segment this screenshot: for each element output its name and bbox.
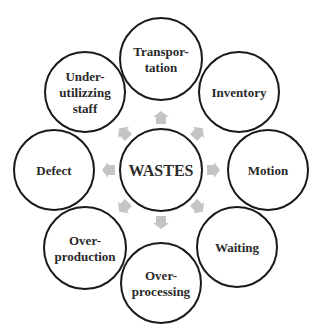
arrow-icon-motion bbox=[207, 162, 220, 178]
arrow-icon-transportation bbox=[153, 111, 169, 124]
node-label: Defect bbox=[36, 163, 72, 178]
node-label: production bbox=[54, 249, 116, 264]
wastes-diagram: Transpor-tationInventoryMotionWaitingOve… bbox=[0, 0, 322, 335]
node-over-production: Over-production bbox=[44, 207, 126, 289]
node-label: Over- bbox=[69, 233, 101, 248]
node-inventory: Inventory bbox=[199, 52, 279, 132]
node-transportation: Transpor-tation bbox=[120, 18, 202, 100]
arrow-icon-over-production bbox=[114, 197, 135, 218]
center-label: WASTES bbox=[129, 162, 194, 179]
node-label: Over- bbox=[145, 268, 177, 283]
node-label: Motion bbox=[248, 163, 289, 178]
node-defect: Defect bbox=[14, 130, 94, 210]
node-over-processing: Over-processing bbox=[121, 243, 201, 323]
node-under-utilizing-staff: Under-utilizzingstaff bbox=[45, 52, 125, 132]
arrow-icon-under-utilizing-staff bbox=[114, 123, 135, 144]
arrow-icon-waiting bbox=[188, 197, 209, 218]
arrow-icon-defect bbox=[102, 162, 115, 178]
arrow-icon-over-processing bbox=[153, 216, 169, 229]
node-label: processing bbox=[132, 284, 191, 299]
node-label: Transpor- bbox=[133, 44, 189, 59]
diagram-canvas: Transpor-tationInventoryMotionWaitingOve… bbox=[0, 0, 322, 335]
center-node: WASTES bbox=[120, 129, 202, 211]
node-waiting: Waiting bbox=[197, 207, 277, 287]
node-label: utilizzing bbox=[59, 85, 111, 100]
node-label: staff bbox=[73, 101, 98, 116]
node-label: Waiting bbox=[215, 240, 260, 255]
node-label: Inventory bbox=[212, 85, 267, 100]
arrow-icon-inventory bbox=[188, 123, 209, 144]
node-label: Under- bbox=[65, 69, 104, 84]
node-label: tation bbox=[145, 60, 178, 75]
node-motion: Motion bbox=[228, 130, 308, 210]
